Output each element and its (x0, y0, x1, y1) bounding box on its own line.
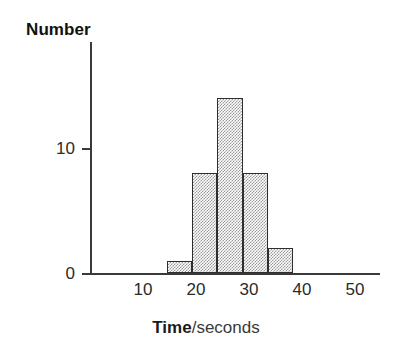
x-axis-title-bold: Time (152, 318, 191, 337)
y-tick-0: 0 (82, 273, 90, 275)
y-tick-10: 10 (82, 148, 90, 150)
histogram-bar (192, 173, 217, 273)
histogram-bar (167, 261, 192, 274)
plot-area: 0 10 10 20 30 40 50 (90, 42, 380, 273)
x-axis-title: Time/seconds (0, 318, 412, 338)
histogram-bar (268, 248, 293, 273)
histogram-bar (217, 98, 242, 273)
x-axis-title-unit: /seconds (192, 318, 260, 337)
x-tick-label-40: 40 (293, 280, 312, 300)
x-tick-label-20: 20 (187, 280, 206, 300)
x-tick-label-50: 50 (346, 280, 365, 300)
y-axis-title: Number (26, 20, 91, 40)
histogram-figure: Number 0 10 10 20 30 40 50 Time/seconds (0, 0, 412, 364)
x-tick-label-30: 30 (240, 280, 259, 300)
y-axis-line (90, 42, 92, 273)
x-tick-label-10: 10 (134, 280, 153, 300)
y-tick-label-0: 0 (66, 264, 75, 284)
histogram-bar (243, 173, 268, 273)
y-tick-label-10: 10 (56, 139, 75, 159)
x-axis-line (90, 273, 380, 275)
